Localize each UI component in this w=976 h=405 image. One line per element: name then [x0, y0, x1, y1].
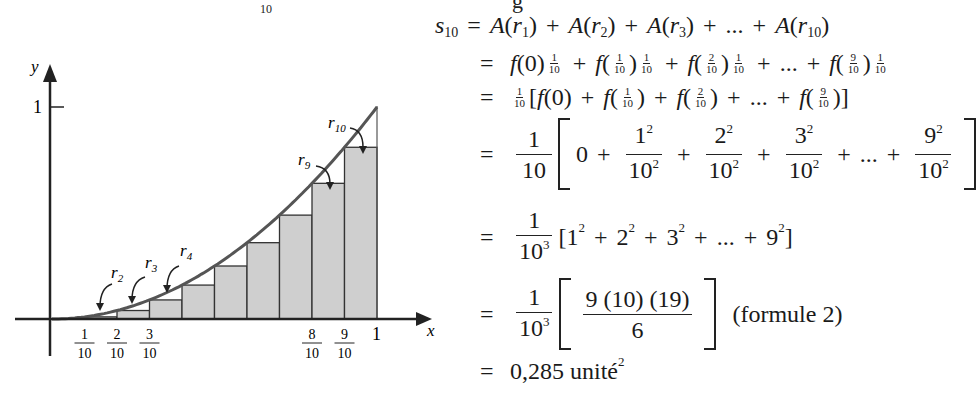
sum-symbol: s — [435, 12, 444, 39]
svg-text:10: 10 — [143, 346, 157, 361]
arrow-icon — [128, 296, 136, 304]
equation-line-1: s10 = A(r1)+ A(r2)+ A(r3)+ ...+ A(r10) — [435, 12, 829, 39]
riemann-rectangle — [150, 300, 183, 319]
equals: = — [480, 50, 510, 77]
svg-text:1: 1 — [81, 327, 88, 342]
arrow-icon — [96, 303, 104, 311]
label-r2: r2 — [111, 263, 124, 284]
riemann-rectangle — [280, 215, 313, 319]
svg-text:10: 10 — [110, 346, 124, 361]
equals: = — [480, 301, 510, 328]
left-bracket — [558, 118, 570, 190]
y-tick-label: 1 — [33, 97, 42, 117]
x-axis-label: x — [426, 321, 435, 340]
svg-text:9: 9 — [341, 327, 348, 342]
svg-text:8: 8 — [309, 327, 316, 342]
equals: = — [480, 224, 510, 251]
x-end-label: 1 — [372, 324, 381, 344]
riemann-rectangle — [182, 285, 215, 319]
equation-line-4: = 110 0+ 12102 + 22102 + 32102 +...+ 921… — [480, 118, 976, 190]
equals: = — [480, 84, 510, 111]
label-r10: r10 — [328, 113, 346, 134]
equation-line-5: = 1103 [12 +22 +32 +... +92] — [480, 205, 793, 270]
svg-text:3: 3 — [146, 327, 153, 342]
label-r9: r9 — [298, 150, 311, 171]
sum-subscript: 10 — [444, 25, 458, 41]
y-axis-label: y — [29, 57, 39, 76]
computation-block: s10 = A(r1)+ A(r2)+ A(r3)+ ...+ A(r10) =… — [440, 0, 972, 405]
svg-text:10: 10 — [338, 346, 352, 361]
x-tick-labels: 110210310810910 — [75, 327, 355, 361]
riemann-rectangle — [312, 183, 345, 319]
subscript-10: 10 — [807, 25, 821, 41]
label-r4: r4 — [180, 241, 193, 262]
riemann-rectangle — [247, 243, 280, 319]
x-tick-label: 210 — [107, 327, 127, 361]
formula-reference: (formule 2) — [732, 301, 842, 328]
x-tick-label: 910 — [335, 327, 355, 361]
y-axis-arrow-icon — [43, 64, 57, 82]
riemann-rectangle — [117, 311, 150, 319]
svg-text:10: 10 — [78, 346, 92, 361]
equation-line-2: = f(0) 110 +f(110) 110 +f(210) 110 +...+… — [480, 50, 890, 77]
equals: = — [467, 12, 481, 39]
label-r3: r3 — [145, 253, 158, 274]
riemann-rectangle — [215, 266, 248, 319]
result-value: 0,285 unité — [510, 358, 618, 385]
equals: = — [480, 141, 510, 168]
svg-text:2: 2 — [114, 327, 121, 342]
equation-line-3: = 110 [f(0) +f(110) +f(210) +...+ f(910)… — [480, 84, 849, 111]
svg-text:10: 10 — [305, 346, 319, 361]
ellipsis: ... — [726, 12, 744, 39]
riemann-rectangle — [345, 147, 378, 319]
riemann-rectangles — [85, 147, 378, 319]
right-bracket — [704, 278, 716, 350]
equation-line-7: = 0,285 unité2 — [480, 358, 625, 385]
x-tick-label: 310 — [140, 327, 160, 361]
right-bracket — [964, 118, 976, 190]
x-tick-label: 110 — [75, 327, 95, 361]
equation-line-6: = 1103 9 (10) (19)6 (formule 2) — [480, 278, 842, 350]
x-tick-label: 810 — [302, 327, 322, 361]
equals: = — [480, 358, 510, 385]
left-bracket — [559, 278, 571, 350]
unit-exponent: 2 — [618, 354, 625, 370]
riemann-sum-figure: y 1 x 1 110210310810910 r2 r3 r4 r9 r10 — [0, 0, 440, 405]
